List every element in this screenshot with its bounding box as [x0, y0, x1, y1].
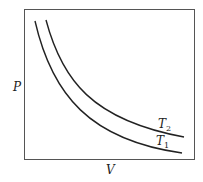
y-axis-label: P [12, 80, 22, 94]
label-t1: T1 [156, 134, 169, 150]
pv-isotherm-chart: T2 T1 P V [0, 0, 203, 182]
x-axis-label: V [106, 163, 116, 177]
label-t2: T2 [158, 117, 171, 133]
